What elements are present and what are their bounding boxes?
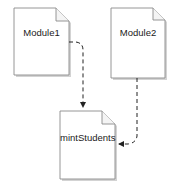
node-module1-label: Module1: [14, 27, 69, 38]
node-module1-shape[interactable]: [14, 8, 71, 77]
edge-module2-to-mintstudents: [119, 78, 137, 144]
node-mintstudents-shape[interactable]: [60, 111, 117, 181]
diagram-canvas: Module1 Module2 mintStudents: [0, 0, 170, 186]
node-mintstudents-label: mintStudents: [60, 132, 115, 143]
node-module2-label: Module2: [111, 27, 165, 38]
node-module2-shape[interactable]: [111, 8, 167, 80]
edge-module1-to-mintstudents: [69, 42, 83, 107]
